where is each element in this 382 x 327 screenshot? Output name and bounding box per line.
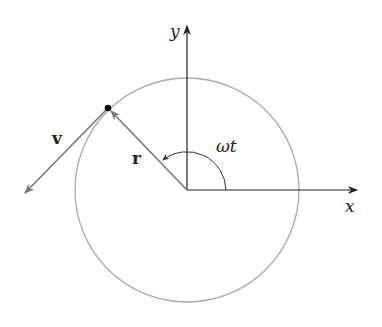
circular-motion-diagram: y x r v ωt [0,0,382,327]
x-axis-label: x [345,198,355,215]
y-axis-label: y [170,23,180,40]
position-vector-r [111,111,187,190]
particle-point [105,105,112,112]
velocity-vector-v [25,109,107,193]
angle-label: ωt [216,138,237,155]
angle-arc [163,152,226,190]
diagram-graphics [0,0,382,327]
v-vector-label: v [52,130,62,147]
r-vector-label: r [132,150,141,167]
